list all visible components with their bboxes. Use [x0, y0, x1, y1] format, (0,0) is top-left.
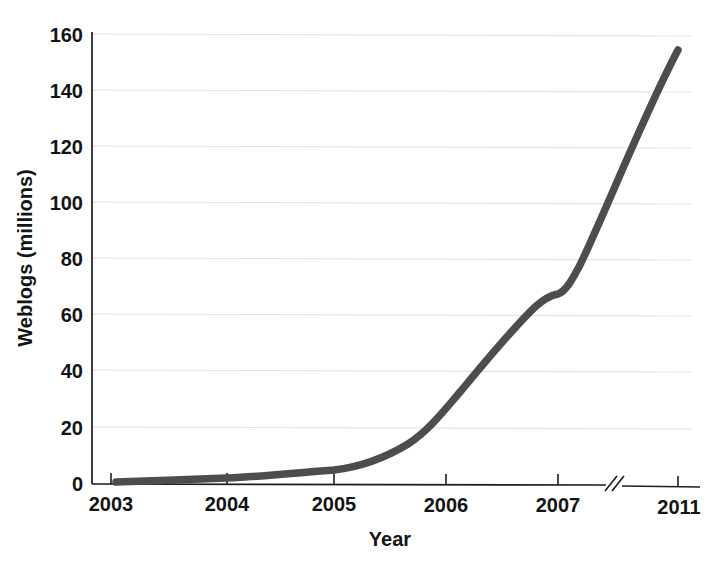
y-tick-label: 60	[61, 304, 83, 326]
y-tick-label: 80	[61, 248, 83, 270]
x-tick-label: 2003	[89, 493, 134, 515]
x-tick-label: 2006	[424, 494, 469, 516]
y-tick-labels: 160 140 120 100 80 60 40 20 0	[50, 24, 83, 495]
y-tick-label: 20	[61, 417, 83, 439]
gridline-60	[92, 314, 692, 316]
gridline-80	[92, 258, 692, 260]
weblogs-growth-line-chart: 160 140 120 100 80 60 40 20 0 2003 2004 …	[0, 0, 711, 573]
gridline-20	[92, 427, 692, 429]
gridline-100	[92, 202, 692, 204]
x-tick-labels: 2003 2004 2005 2006 2007 2011	[89, 493, 701, 518]
y-tick-label: 120	[50, 136, 83, 158]
gridlines	[92, 34, 692, 429]
axis-break-icon	[605, 476, 624, 491]
y-tick-label: 160	[50, 24, 83, 46]
y-tick-label: 100	[50, 192, 83, 214]
x-tick-label: 2007	[536, 494, 581, 516]
weblogs-data-line	[116, 50, 678, 482]
chart-container: 160 140 120 100 80 60 40 20 0 2003 2004 …	[0, 0, 711, 573]
x-axis-line-left	[92, 484, 606, 485]
x-tick-label: 2011	[657, 496, 700, 518]
x-axis-title: Year	[369, 528, 411, 550]
y-tick-label: 40	[61, 360, 83, 382]
gridline-140	[92, 90, 692, 92]
x-tick-label: 2004	[205, 493, 250, 515]
gridline-40	[92, 370, 692, 372]
y-tick-label: 140	[50, 80, 83, 102]
x-tick-label: 2005	[312, 493, 357, 515]
gridline-160	[92, 34, 692, 36]
y-axis-title: Weblogs (millions)	[14, 169, 36, 346]
gridline-120	[92, 146, 692, 148]
y-tick-label: 0	[72, 473, 83, 495]
x-axis-line-right	[622, 486, 700, 487]
